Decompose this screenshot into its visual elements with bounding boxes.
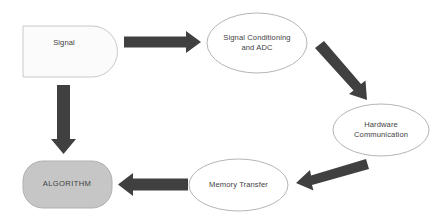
- arrow-signal-to-algorithm: [51, 85, 76, 154]
- flowchart-canvas: [0, 0, 446, 224]
- arrow-conditioning-to-hardware: [315, 41, 367, 100]
- arrow-hardware-to-memory: [296, 159, 369, 191]
- node-shape-hardware[interactable]: [333, 104, 429, 156]
- arrow-memory-to-algorithm: [118, 173, 188, 196]
- node-shape-signal[interactable]: [23, 26, 118, 77]
- node-shape-algorithm[interactable]: [23, 161, 112, 208]
- arrow-signal-to-conditioning: [124, 31, 201, 53]
- flowchart-diagram: Signal Signal Conditioning and ADC Hardw…: [0, 0, 446, 224]
- node-shape-memory[interactable]: [189, 159, 288, 211]
- node-shape-conditioning[interactable]: [207, 13, 307, 73]
